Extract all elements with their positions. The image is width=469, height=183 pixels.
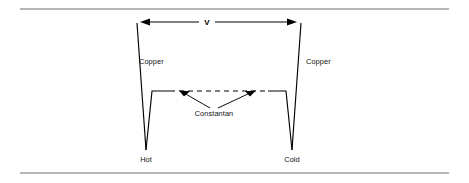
copper-right-wire [292,23,301,150]
constantan-leader-left [184,93,210,108]
voltage-dimension-line: V [140,18,297,27]
cold-junction-label: Cold [284,155,300,164]
copper-left-label: Copper [139,57,164,66]
hot-junction-label: Hot [140,155,152,164]
constantan-leader-right [218,93,250,108]
constantan-label: Constantan [195,109,234,118]
constantan-right-leg [268,91,292,150]
dimension-arrow-left-icon [140,19,150,26]
copper-right-label: Copper [306,57,331,66]
thermocouple-diagram: V Copper Copper Constantan Hot Cold [0,0,469,183]
dimension-arrow-right-icon [287,19,297,26]
constantan-arrow-right-icon [245,91,256,97]
voltage-label: V [204,18,210,27]
copper-left-wire [137,23,146,150]
constantan-left-leg [146,91,170,150]
constantan-leaders [179,91,256,109]
